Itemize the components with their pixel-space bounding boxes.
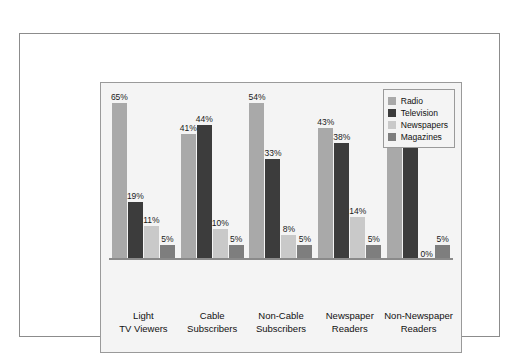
bar[interactable] bbox=[318, 128, 333, 260]
category-label: LightTV Viewers bbox=[109, 310, 178, 335]
bar[interactable] bbox=[350, 217, 365, 260]
category-label-line: Light bbox=[109, 310, 178, 323]
bar-value-label: 33% bbox=[264, 149, 281, 158]
bar-item[interactable]: 54% bbox=[249, 93, 264, 260]
bar-value-label: 10% bbox=[212, 219, 229, 228]
bar-value-label: 43% bbox=[317, 118, 334, 127]
category-label: Non-NewspaperReaders bbox=[384, 310, 453, 335]
legend-swatch-icon bbox=[388, 109, 396, 117]
bar[interactable] bbox=[181, 134, 196, 260]
bar-value-label: 5% bbox=[368, 235, 380, 244]
bar-value-label: 5% bbox=[161, 235, 173, 244]
bar-item[interactable]: 41% bbox=[181, 93, 196, 260]
bar-item[interactable]: 5% bbox=[160, 93, 175, 260]
bar-value-label: 5% bbox=[230, 235, 242, 244]
bar[interactable] bbox=[213, 229, 228, 260]
category-label-line: Subscribers bbox=[247, 323, 316, 336]
bar-item[interactable]: 10% bbox=[213, 93, 228, 260]
bar[interactable] bbox=[281, 235, 296, 260]
legend-item[interactable]: Television bbox=[388, 107, 448, 118]
bar[interactable] bbox=[197, 125, 212, 260]
category-label-line: Readers bbox=[384, 323, 453, 336]
bar[interactable] bbox=[112, 103, 127, 260]
legend-swatch-icon bbox=[388, 97, 396, 105]
bar-value-label: 41% bbox=[180, 124, 197, 133]
bar-item[interactable]: 5% bbox=[297, 93, 312, 260]
bar-item[interactable]: 65% bbox=[112, 93, 127, 260]
bar-value-label: 19% bbox=[127, 192, 144, 201]
category-label-line: Cable bbox=[178, 310, 247, 323]
legend-swatch-icon bbox=[388, 133, 396, 141]
bar[interactable] bbox=[249, 103, 264, 260]
category-label-line: Newspaper bbox=[315, 310, 384, 323]
bar-item[interactable]: 19% bbox=[128, 93, 143, 260]
bar-item[interactable]: 44% bbox=[197, 93, 212, 260]
bar[interactable] bbox=[128, 202, 143, 260]
bar-group: 65%19%11%5% bbox=[109, 93, 178, 260]
bar-value-label: 65% bbox=[111, 93, 128, 102]
legend-label: Television bbox=[401, 108, 438, 118]
legend-item[interactable]: Newspapers bbox=[388, 119, 448, 130]
bar-group: 41%44%10%5% bbox=[178, 93, 247, 260]
bar-value-label: 44% bbox=[196, 115, 213, 124]
legend-label: Magazines bbox=[401, 132, 442, 142]
category-label: CableSubscribers bbox=[178, 310, 247, 335]
x-axis-category-labels: LightTV ViewersCableSubscribersNon-Cable… bbox=[109, 306, 453, 348]
bar-value-label: 8% bbox=[283, 225, 295, 234]
bar-value-label: 5% bbox=[436, 235, 448, 244]
bar-value-label: 54% bbox=[248, 93, 265, 102]
chart-legend: RadioTelevisionNewspapersMagazines bbox=[383, 89, 455, 148]
bar-value-label: 38% bbox=[333, 133, 350, 142]
category-label-line: Readers bbox=[315, 323, 384, 336]
bar-value-label: 14% bbox=[349, 207, 366, 216]
legend-item[interactable]: Radio bbox=[388, 95, 448, 106]
bar[interactable] bbox=[334, 143, 349, 260]
bar-item[interactable]: 11% bbox=[144, 93, 159, 260]
bar-item[interactable]: 43% bbox=[318, 93, 333, 260]
category-label: Non-CableSubscribers bbox=[247, 310, 316, 335]
bar-value-label: 5% bbox=[299, 235, 311, 244]
category-label-line: Subscribers bbox=[178, 323, 247, 336]
bar-item[interactable]: 14% bbox=[350, 93, 365, 260]
bar-item[interactable]: 8% bbox=[281, 93, 296, 260]
category-label-line: Non-Cable bbox=[247, 310, 316, 323]
bar-item[interactable]: 5% bbox=[229, 93, 244, 260]
legend-item[interactable]: Magazines bbox=[388, 131, 448, 142]
legend-label: Radio bbox=[401, 96, 423, 106]
category-label-line: Non-Newspaper bbox=[384, 310, 453, 323]
bar-group: 54%33%8%5% bbox=[247, 93, 316, 260]
category-label-line: TV Viewers bbox=[109, 323, 178, 336]
category-label: NewspaperReaders bbox=[315, 310, 384, 335]
bar-value-label: 11% bbox=[143, 216, 159, 225]
legend-swatch-icon bbox=[388, 121, 396, 129]
bar[interactable] bbox=[265, 159, 280, 260]
bar-item[interactable]: 33% bbox=[265, 93, 280, 260]
bar-item[interactable]: 38% bbox=[334, 93, 349, 260]
legend-label: Newspapers bbox=[401, 120, 448, 130]
bar[interactable] bbox=[144, 226, 159, 260]
bar-item[interactable]: 5% bbox=[366, 93, 381, 260]
x-axis-line bbox=[109, 258, 453, 260]
chart-panel: 65%19%11%5%41%44%10%5%54%33%8%5%43%38%14… bbox=[100, 82, 462, 353]
bar-group: 43%38%14%5% bbox=[315, 93, 384, 260]
chart-outer-frame: 65%19%11%5%41%44%10%5%54%33%8%5%43%38%14… bbox=[19, 33, 500, 337]
